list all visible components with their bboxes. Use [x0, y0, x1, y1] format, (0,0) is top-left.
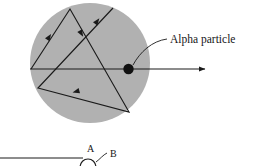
lower-figure-arch [80, 159, 96, 166]
label-b-leader-line [96, 153, 107, 162]
gold-foil-atom-disk [30, 3, 150, 123]
alpha-particle-label: Alpha particle [170, 33, 235, 46]
scattering-diagram-canvas: Alpha particle A B [0, 0, 270, 166]
lower-figure-label-a: A [87, 143, 95, 154]
alpha-particle-dot [123, 64, 133, 74]
lower-figure-label-b: B [110, 148, 117, 159]
alpha-scattering-figure: Alpha particle A B [0, 0, 270, 166]
